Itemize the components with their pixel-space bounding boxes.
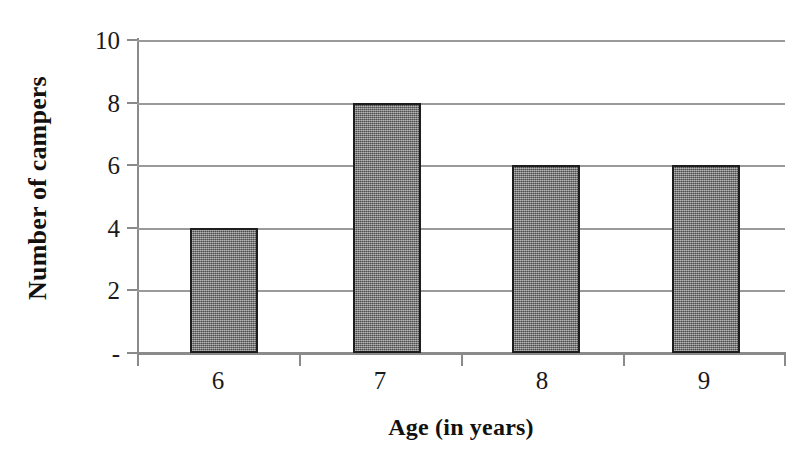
bar-age-9 [672,165,740,353]
x-tick-label-6: 6 [137,368,299,393]
y-tick-label-10: 10 [72,28,120,53]
y-tick-label-4: 4 [72,215,120,240]
x-tick-label-9: 9 [623,368,785,393]
x-tick-label-7: 7 [299,368,461,393]
gridline-8 [137,103,785,105]
y-tick-label-8: 8 [72,90,120,115]
bar-age-7 [353,103,421,353]
y-tick-label-2: 2 [72,278,120,303]
x-tick-mark-1 [299,353,301,366]
y-tick-label-6: 6 [72,153,120,178]
x-tick-mark-0 [137,353,139,366]
x-tick-label-8: 8 [461,368,623,393]
x-tick-mark-3 [623,353,625,366]
y-tick-label-0: - [72,341,120,366]
x-axis-title: Age (in years) [137,414,785,441]
bar-age-6 [190,228,258,353]
y-axis-title: Number of campers [18,8,58,368]
gridline-10 [137,40,785,42]
bar-age-8 [512,165,580,353]
x-tick-mark-4 [784,353,786,366]
x-tick-mark-2 [461,353,463,366]
plot-area [137,40,785,353]
bar-chart: Number of campers 10 8 6 4 2 - 6 7 8 9 A… [0,0,810,460]
